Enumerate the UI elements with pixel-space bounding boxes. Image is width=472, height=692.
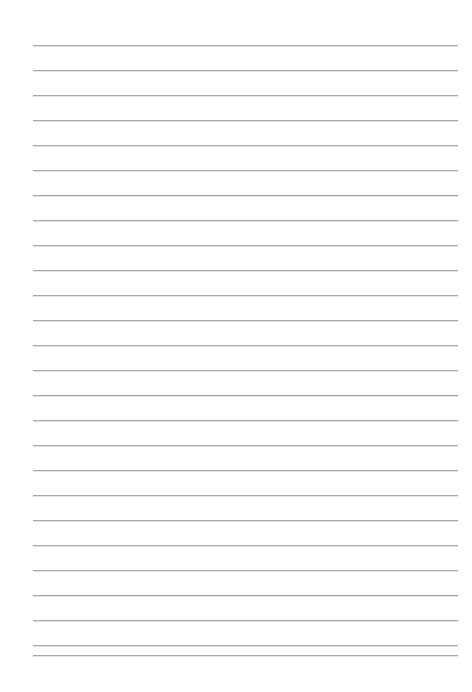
- rule-line: [33, 620, 458, 621]
- rule-line: [33, 545, 458, 546]
- rule-line: [33, 370, 458, 371]
- rule-line: [33, 195, 458, 196]
- rule-line: [33, 70, 458, 71]
- rule-line: [33, 655, 458, 656]
- rule-line: [33, 570, 458, 571]
- rule-line: [33, 520, 458, 521]
- rule-line: [33, 395, 458, 396]
- rule-line: [33, 645, 458, 646]
- rule-line: [33, 95, 458, 96]
- rule-line: [33, 470, 458, 471]
- rule-line: [33, 345, 458, 346]
- ruled-writing-area[interactable]: [0, 0, 472, 692]
- rule-line: [33, 270, 458, 271]
- rule-line: [33, 445, 458, 446]
- rule-line: [33, 245, 458, 246]
- rule-line: [33, 120, 458, 121]
- rule-line: [33, 420, 458, 421]
- rule-line: [33, 495, 458, 496]
- rule-line: [33, 595, 458, 596]
- rule-line: [33, 220, 458, 221]
- rule-line: [33, 295, 458, 296]
- rule-line: [33, 45, 458, 46]
- rule-line: [33, 320, 458, 321]
- rule-line: [33, 170, 458, 171]
- lined-paper-page: Blank Ruled Paper: [0, 0, 472, 692]
- rule-line: [33, 145, 458, 146]
